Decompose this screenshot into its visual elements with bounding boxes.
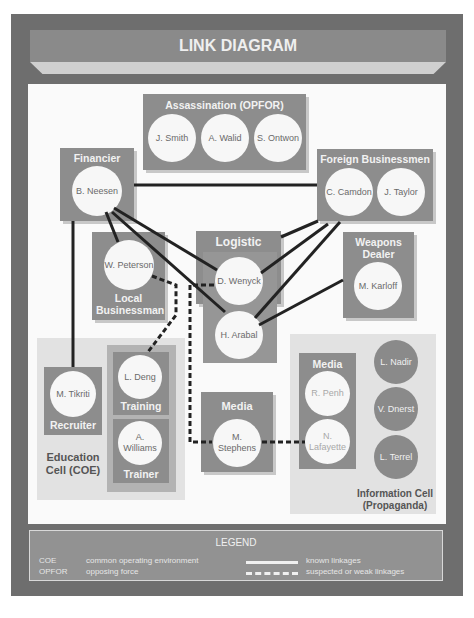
group-assassination[interactable]: Assassination (OPFOR) J. Smith A. Walid … [143,94,306,170]
group-title: Logistic [196,236,281,248]
person-node[interactable]: A. Walid [201,114,249,162]
information-cell-label: Information Cell (Propaganda) [350,488,440,512]
education-cell-label: Education Cell (COE) [44,451,102,477]
person-node[interactable]: R. Penh [305,371,350,416]
legend-line-label: known linkages [306,556,361,565]
group-media-center[interactable]: Media M. Stephens [201,392,273,472]
person-node[interactable]: B. Neesen [72,166,122,216]
person-node[interactable]: M. Tikriti [50,371,96,417]
group-title: Media [201,400,273,412]
person-node[interactable]: S. Ontwon [254,114,302,162]
group-trainer[interactable]: A. Williams Trainer [113,419,169,483]
group-title: Recruiter [44,419,102,431]
person-node[interactable]: D. Wenyck [215,257,263,305]
person-node[interactable]: M. Stephens [213,419,261,467]
group-title: Local Businessman [96,292,161,316]
group-training[interactable]: L. Deng Training [113,352,169,415]
group-local-businessman[interactable]: W. Peterson Local Businessman [92,232,165,320]
group-recruiter[interactable]: M. Tikriti Recruiter [44,367,102,435]
legend-abbr: OPFOR [39,567,67,576]
person-node[interactable]: N. Lafayette [305,419,350,464]
legend-abbr: COE [39,556,56,565]
dashed-line-swatch [246,572,298,575]
legend-title: LEGEND [30,537,442,548]
title-underline [30,62,446,74]
legend-meaning: opposing force [86,567,138,576]
group-title: Media [299,358,356,370]
legend-meaning: common operating environment [86,556,199,565]
legend-line-label: suspected or weak linkages [306,567,404,576]
person-node[interactable]: H. Arabal [215,311,263,359]
group-title: Financier [60,152,134,164]
person-node[interactable]: W. Peterson [104,240,154,290]
person-node[interactable]: L. Terrel [374,435,418,479]
group-financier[interactable]: Financier B. Neesen [60,148,134,221]
person-node[interactable]: C. Camdon [325,168,373,216]
solid-line-swatch [246,561,298,564]
person-node[interactable]: L. Nadir [374,340,418,384]
person-node[interactable]: A. Williams [118,421,162,465]
group-title: Weapons Dealer [347,236,410,260]
group-title: Training [113,400,169,412]
person-node[interactable]: M. Karloff [354,262,402,310]
person-node[interactable]: V. Dnerst [374,387,418,431]
group-title: Trainer [113,468,169,480]
legend: LEGEND COE common operating environment … [29,530,443,581]
group-title: Foreign Businessmen [317,153,433,165]
group-weapons-dealer[interactable]: Weapons Dealer M. Karloff [343,232,414,318]
group-foreign-businessmen[interactable]: Foreign Businessmen C. Camdon J. Taylor [317,149,433,221]
page-title: LINK DIAGRAM [30,30,446,62]
person-node[interactable]: J. Taylor [377,168,425,216]
person-node[interactable]: L. Deng [118,355,162,399]
group-media-info[interactable]: Media R. Penh N. Lafayette [299,353,356,469]
group-title: Assassination (OPFOR) [143,99,306,111]
person-node[interactable]: J. Smith [148,114,196,162]
